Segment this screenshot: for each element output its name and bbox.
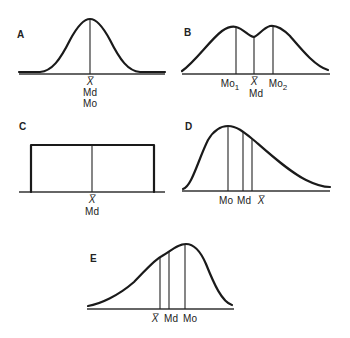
panel-e-mean-label: X̅ xyxy=(151,313,159,324)
distribution-shapes-diagram: A X̅ Md Mo B Mo1 X̅ Md Mo2 C X̅ Md D M xyxy=(0,0,350,338)
panel-a-median-label: Md xyxy=(83,87,97,98)
panel-a-curve xyxy=(19,19,165,72)
panel-b-curve xyxy=(182,26,328,71)
panel-e: E X̅ Md Mo xyxy=(87,244,234,324)
panel-b-mode1-label: Mo1 xyxy=(221,78,240,92)
panel-e-median-label: Md xyxy=(164,313,178,324)
panel-b-median-label: Md xyxy=(249,88,263,99)
panel-d-mean-label: X̅ xyxy=(257,195,265,206)
panel-b-mean-label: X̅ xyxy=(250,76,258,87)
panel-b: B Mo1 X̅ Md Mo2 xyxy=(182,26,330,99)
panel-d-median-label: Md xyxy=(237,195,251,206)
panel-d-mode-label: Mo xyxy=(219,195,233,206)
panel-d-curve xyxy=(183,126,330,189)
panel-c-median-label: Md xyxy=(85,206,99,217)
panel-d-label: D xyxy=(185,121,192,132)
panel-b-mode2-label: Mo2 xyxy=(269,78,288,92)
panel-d: D Mo Md X̅ xyxy=(182,121,330,206)
panel-e-label: E xyxy=(90,253,97,264)
panel-a-mode-label: Mo xyxy=(83,98,97,109)
panel-a-label: A xyxy=(17,29,24,40)
panel-c-mean-label: X̅ xyxy=(88,194,96,205)
panel-a-mean-label: X̅ xyxy=(86,76,94,87)
panel-b-label: B xyxy=(184,27,191,38)
panel-c: C X̅ Md xyxy=(19,121,165,217)
panel-a: A X̅ Md Mo xyxy=(17,19,165,109)
panel-e-mode-label: Mo xyxy=(183,313,197,324)
panel-c-label: C xyxy=(19,121,26,132)
